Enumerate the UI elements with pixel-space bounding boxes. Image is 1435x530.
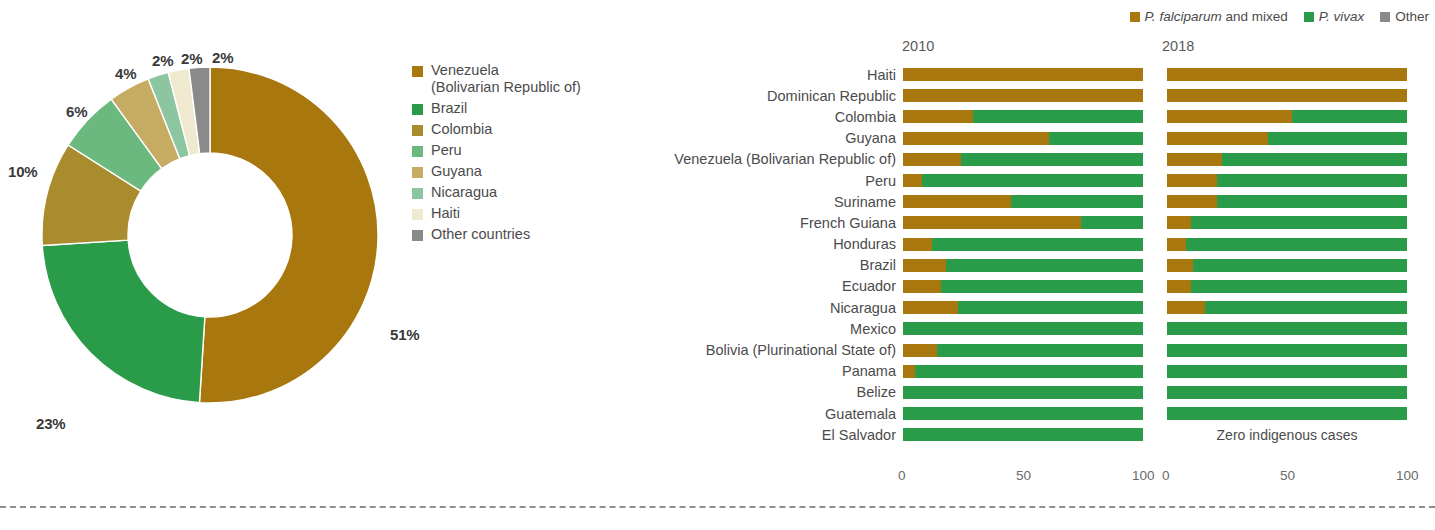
bar-segment[interactable] (1167, 195, 1217, 208)
donut-label-colombia: 10% (8, 163, 37, 180)
bar-segment[interactable] (1167, 153, 1222, 166)
bar-row: Haiti (600, 64, 1435, 85)
bar-segment[interactable] (1292, 110, 1407, 123)
bar-row: Guyana (600, 128, 1435, 149)
bar-panel-2018 (1167, 68, 1407, 81)
bar-segment[interactable] (1217, 174, 1407, 187)
donut-legend-item-nicaragua[interactable]: Nicaragua (412, 184, 632, 201)
bar-segment[interactable] (958, 301, 1143, 314)
bar-segment[interactable] (903, 174, 922, 187)
bar-panel-2010 (903, 259, 1143, 272)
bar-segment[interactable] (1167, 174, 1217, 187)
bar-row-label: Venezuela (Bolivarian Republic of) (600, 151, 903, 167)
donut-legend-item-guyana[interactable]: Guyana (412, 163, 632, 180)
donut-slice-brazil[interactable] (42, 240, 205, 403)
donut-legend-item-venezuela[interactable]: Venezuela(Bolivarian Republic of) (412, 62, 632, 96)
bar-segment[interactable] (903, 68, 1143, 81)
bar-segment[interactable] (1167, 407, 1407, 420)
axis-tick-label: 100 (1132, 468, 1155, 483)
bar-segment[interactable] (1167, 301, 1205, 314)
series-legend-label-italic: P. vivax (1319, 9, 1365, 24)
bar-segment[interactable] (1217, 195, 1407, 208)
bar-segment[interactable] (903, 428, 1143, 441)
bar-segment[interactable] (1167, 89, 1407, 102)
donut-legend-item-brazil[interactable]: Brazil (412, 100, 632, 117)
bar-segment[interactable] (903, 386, 1143, 399)
bar-segment[interactable] (1081, 216, 1143, 229)
donut-label-haiti: 2% (181, 50, 202, 67)
bar-segment[interactable] (973, 110, 1143, 123)
bar-segment[interactable] (1167, 280, 1191, 293)
bar-segment[interactable] (932, 238, 1143, 251)
donut-legend-label: Brazil (431, 100, 467, 117)
bar-panel-2018: Zero indigenous cases (1167, 428, 1407, 441)
bar-panel-2018 (1167, 153, 1407, 166)
bar-segment[interactable] (915, 365, 1143, 378)
bar-row: Belize (600, 382, 1435, 403)
bar-segment[interactable] (1191, 280, 1407, 293)
bar-segment[interactable] (903, 216, 1081, 229)
bar-segment[interactable] (903, 365, 915, 378)
bar-segment[interactable] (1222, 153, 1407, 166)
bar-panel-2018 (1167, 132, 1407, 145)
bar-segment[interactable] (941, 280, 1143, 293)
legend-swatch-icon (412, 104, 423, 115)
bar-row-label: El Salvador (600, 427, 903, 443)
bar-segment[interactable] (903, 301, 958, 314)
donut-legend-label: Other countries (431, 226, 530, 243)
donut-legend-item-other[interactable]: Other countries (412, 226, 632, 243)
bar-segment[interactable] (946, 259, 1143, 272)
bar-row-label: Peru (600, 173, 903, 189)
bar-segment[interactable] (1167, 386, 1407, 399)
bar-segment[interactable] (903, 344, 937, 357)
bar-segment[interactable] (903, 153, 961, 166)
donut-slice-venezuela[interactable] (199, 67, 378, 403)
bar-row: Suriname (600, 191, 1435, 212)
donut-label-brazil: 23% (36, 415, 65, 432)
bar-segment[interactable] (1167, 68, 1407, 81)
bar-segment[interactable] (961, 153, 1143, 166)
donut-label-venezuela: 51% (390, 326, 419, 343)
bar-segment[interactable] (1167, 322, 1407, 335)
donut-label-peru: 6% (66, 103, 87, 120)
bar-panel-2018 (1167, 89, 1407, 102)
bar-segment[interactable] (903, 110, 973, 123)
bar-segment[interactable] (1167, 110, 1292, 123)
bar-segment[interactable] (1011, 195, 1143, 208)
bar-segment[interactable] (903, 259, 946, 272)
bar-segment[interactable] (1205, 301, 1407, 314)
bar-panel-2010 (903, 280, 1143, 293)
series-legend-item-other_series[interactable]: Other (1380, 9, 1429, 24)
bar-segment[interactable] (1049, 132, 1143, 145)
bar-segment[interactable] (903, 89, 1143, 102)
bar-segment[interactable] (1167, 365, 1407, 378)
bar-row: Ecuador (600, 276, 1435, 297)
bar-segment[interactable] (1191, 216, 1407, 229)
bar-segment[interactable] (1167, 238, 1186, 251)
donut-legend-label: Guyana (431, 163, 482, 180)
bar-row: Nicaragua (600, 297, 1435, 318)
series-legend-item-vivax[interactable]: P. vivax (1304, 9, 1365, 24)
bar-segment[interactable] (1193, 259, 1407, 272)
bar-segment[interactable] (903, 238, 932, 251)
bar-segment[interactable] (1186, 238, 1407, 251)
donut-legend-item-peru[interactable]: Peru (412, 142, 632, 159)
bar-segment[interactable] (1167, 216, 1191, 229)
bar-row: Guatemala (600, 403, 1435, 424)
series-legend-item-falciparum[interactable]: P. falciparum and mixed (1130, 9, 1288, 24)
bar-segment[interactable] (903, 322, 1143, 335)
axis-tick-label: 50 (1280, 468, 1295, 483)
bar-segment[interactable] (922, 174, 1143, 187)
bar-segment[interactable] (903, 407, 1143, 420)
bar-segment[interactable] (1167, 344, 1407, 357)
donut-legend-label: Peru (431, 142, 462, 159)
bar-segment[interactable] (1167, 259, 1193, 272)
bar-segment[interactable] (1167, 132, 1268, 145)
donut-legend-item-colombia[interactable]: Colombia (412, 121, 632, 138)
bar-segment[interactable] (937, 344, 1143, 357)
bar-segment[interactable] (1268, 132, 1407, 145)
bar-segment[interactable] (903, 280, 941, 293)
bar-segment[interactable] (903, 132, 1049, 145)
bar-segment[interactable] (903, 195, 1011, 208)
donut-legend-item-haiti[interactable]: Haiti (412, 205, 632, 222)
